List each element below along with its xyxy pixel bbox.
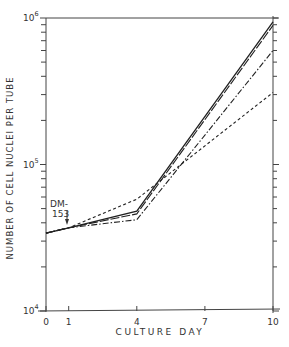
x-tick-label: 0 bbox=[43, 317, 49, 327]
x-axis-label: CULTURE DAY bbox=[116, 327, 205, 337]
series-long-dash bbox=[46, 25, 273, 233]
x-tick-label: 4 bbox=[134, 317, 140, 327]
y-tick-label: 106 bbox=[23, 10, 39, 23]
chart: 104105106014710 DM- 153 CULTURE DAY NUMB… bbox=[0, 0, 289, 347]
x-tick-label: 7 bbox=[202, 317, 208, 327]
y-tick-label: 104 bbox=[23, 303, 39, 316]
series-dash-dot bbox=[46, 51, 273, 234]
annotation-dm153: DM- 153 bbox=[50, 199, 69, 225]
data-series bbox=[46, 22, 273, 233]
x-tick-label: 1 bbox=[66, 317, 72, 327]
x-tick-label: 10 bbox=[267, 317, 279, 327]
arrow-down-icon bbox=[65, 219, 69, 225]
x-axis bbox=[38, 309, 280, 311]
annotation-line1: DM- bbox=[50, 199, 68, 209]
axes: 104105106014710 bbox=[23, 10, 280, 327]
series-solid bbox=[46, 22, 273, 233]
y-tick-label: 105 bbox=[23, 157, 39, 170]
series-short-dash bbox=[46, 93, 273, 234]
y-axis-label: NUMBER OF CELL NUCLEI PER TUBE bbox=[5, 76, 15, 259]
